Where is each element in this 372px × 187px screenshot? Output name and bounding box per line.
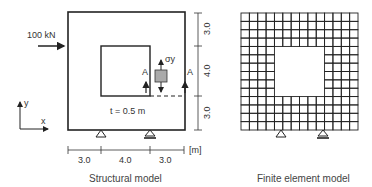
dim-v-1: 3.0	[202, 22, 212, 35]
structural-model-caption: Structural model	[89, 173, 162, 184]
fe-model-caption: Finite element model	[257, 173, 350, 184]
axis-x-label: x	[41, 116, 46, 126]
dim-h-1: 3.0	[78, 155, 91, 165]
section-label-left: A	[142, 67, 148, 77]
pin-support-icon	[96, 130, 106, 137]
stress-label: σy	[165, 54, 176, 64]
axis-y-label: y	[24, 98, 29, 108]
figure-canvas: 100 kN A A σy t = 0.5 m y x	[0, 0, 372, 187]
stress-element	[155, 70, 167, 82]
horizontal-dimensions	[68, 146, 184, 154]
fe-model: Finite element model	[241, 13, 358, 184]
thickness-label: t = 0.5 m	[110, 106, 145, 116]
dim-v-3: 3.0	[202, 106, 212, 119]
dim-v-2: 4.0	[202, 64, 212, 77]
dim-h-2: 4.0	[119, 155, 132, 165]
fe-roller-support-icon	[318, 130, 328, 136]
fe-pin-support-icon	[276, 130, 286, 137]
fe-mesh	[241, 13, 358, 130]
vertical-dimensions	[194, 13, 202, 130]
roller-support-icon	[145, 130, 155, 136]
load-label: 100 kN	[27, 30, 56, 40]
structural-model: 100 kN A A σy t = 0.5 m y x	[20, 12, 212, 184]
dim-h-3: 3.0	[159, 155, 172, 165]
section-label-right: A	[187, 67, 193, 77]
unit-label: [m]	[189, 145, 202, 155]
